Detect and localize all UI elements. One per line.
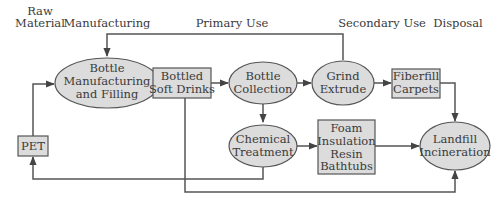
edges xyxy=(33,34,455,192)
node-fiberfill-carpets: Fiberfill Carpets xyxy=(392,69,440,98)
node-label: Chemical xyxy=(236,132,291,146)
header-primary-use: Primary Use xyxy=(196,16,269,30)
node-label: Fiberfill xyxy=(393,69,440,83)
node-label: Treatment xyxy=(232,145,294,159)
node-bottled-soft-drinks: Bottled Soft Drinks xyxy=(149,68,215,98)
node-label: Landfill xyxy=(433,132,478,146)
node-label: Incineration xyxy=(419,145,491,159)
node-label: Soft Drinks xyxy=(149,82,215,96)
column-headers: Raw Material Manufacturing Primary Use S… xyxy=(15,4,483,30)
node-foam-insulation: Foam Insulation Resin Bathtubs xyxy=(317,120,376,174)
pet-lifecycle-diagram: Raw Material Manufacturing Primary Use S… xyxy=(0,0,497,204)
node-pet: PET xyxy=(18,136,48,156)
node-bottle-manufacturing: Bottle Manufacturing and Filling xyxy=(55,58,159,108)
node-label: Collection xyxy=(234,82,294,96)
node-label: Bottled xyxy=(161,69,204,83)
node-label: PET xyxy=(21,139,45,153)
node-label: Bottle xyxy=(89,61,124,75)
node-label: Extrude xyxy=(320,82,367,96)
node-bottle-collection: Bottle Collection xyxy=(229,62,297,104)
node-label: Bottle xyxy=(245,69,280,83)
node-grind-extrude: Grind Extrude xyxy=(312,61,374,105)
node-label: and Filling xyxy=(76,87,139,101)
header-raw-material-line2: Material xyxy=(15,16,65,30)
node-label: Grind xyxy=(326,69,360,83)
header-secondary-use: Secondary Use xyxy=(338,16,426,30)
edge-chemical-to-pet xyxy=(33,157,263,179)
node-landfill-incineration: Landfill Incineration xyxy=(419,122,491,170)
node-label: Foam xyxy=(330,121,362,135)
edge-grind-to-mfg xyxy=(107,34,343,60)
header-manufacturing: Manufacturing xyxy=(64,16,152,30)
node-label: Carpets xyxy=(393,82,439,96)
edge-pet-to-mfg xyxy=(33,84,54,136)
edge-fiberfill-to-landfill xyxy=(440,83,455,121)
header-disposal: Disposal xyxy=(433,16,483,30)
node-chemical-treatment: Chemical Treatment xyxy=(229,125,297,167)
node-label: Bathtubs xyxy=(320,159,373,173)
node-label: Manufacturing xyxy=(64,74,152,88)
node-label: Insulation xyxy=(317,134,376,148)
